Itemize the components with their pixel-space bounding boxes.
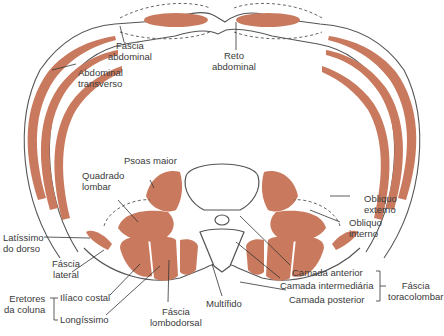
label-longissimo: Longíssimo: [60, 314, 109, 325]
label-abdominal-transverso: Abdominal transverso: [78, 67, 123, 89]
label-camada-posterior: Camada posterior: [289, 294, 365, 305]
label-multifido: Multífido: [206, 298, 242, 309]
label-camada-anterior: Camada anterior: [292, 267, 363, 278]
label-fascia-lateral: Fáscia lateral: [52, 258, 80, 280]
label-obliquo-interno: Obliquo interno: [349, 217, 382, 239]
label-fascia-toracolombar: Fáscia toracolombar: [388, 280, 443, 302]
label-fascia-lombodorsal: Fáscia lombodorsal: [150, 306, 202, 328]
label-fascia-abdominal: Fáscia abdominal: [108, 40, 152, 62]
label-iliaco-costal: Ilíaco costal: [60, 292, 110, 303]
label-quadrado-lombar: Quadrado lombar: [82, 170, 124, 192]
label-reto-abdominal: Reto abdominal: [212, 50, 256, 72]
label-eretores-coluna: Eretores da coluna: [4, 293, 45, 315]
label-camada-intermediaria: Camada intermediária: [280, 280, 373, 291]
label-obliquo-externo: Obliquo externo: [364, 193, 397, 215]
back-muscles: [84, 164, 360, 281]
label-psoas-maior: Psoas maior: [124, 155, 177, 166]
label-latissimo-dorso: Latíssimo do dorso: [3, 232, 44, 254]
